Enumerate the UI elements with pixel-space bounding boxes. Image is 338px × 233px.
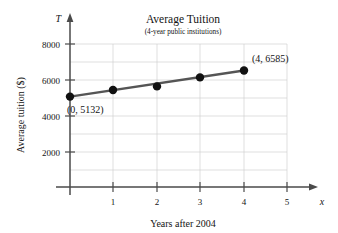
data-point xyxy=(196,73,204,81)
data-point xyxy=(240,66,248,74)
chart-title: Average Tuition xyxy=(146,13,220,26)
annotation-first-point: (0, 5132) xyxy=(67,104,104,116)
annotation-last-point: (4, 6585) xyxy=(252,53,289,65)
data-point xyxy=(153,82,161,90)
x-axis-variable-symbol: x xyxy=(319,196,325,207)
x-axis-title: Years after 2004 xyxy=(150,218,216,229)
vertical-gridlines xyxy=(113,44,287,187)
data-point xyxy=(66,92,74,100)
y-tick-label-4000: 4000 xyxy=(42,112,61,122)
x-tick-label-5: 5 xyxy=(285,197,290,207)
data-point xyxy=(109,86,117,94)
chart-svg: 8000 6000 4000 2000 1 2 3 4 5 T x Averag… xyxy=(0,0,338,233)
x-tick-label-2: 2 xyxy=(155,197,160,207)
x-tick-label-3: 3 xyxy=(198,197,203,207)
chart-subtitle: (4-year public institutions) xyxy=(145,28,222,36)
chart-figure: 8000 6000 4000 2000 1 2 3 4 5 T x Averag… xyxy=(0,0,338,233)
y-tick-label-2000: 2000 xyxy=(42,148,61,158)
y-tick-label-8000: 8000 xyxy=(42,40,61,50)
y-axis-variable-symbol: T xyxy=(55,13,62,24)
y-tick-label-6000: 6000 xyxy=(42,76,61,86)
x-tick-label-1: 1 xyxy=(111,197,116,207)
y-axis-title: Average tuition ($) xyxy=(15,77,27,153)
y-axis-arrow xyxy=(67,13,74,22)
x-axis-arrow xyxy=(309,184,318,191)
x-tick-label-4: 4 xyxy=(242,197,247,207)
